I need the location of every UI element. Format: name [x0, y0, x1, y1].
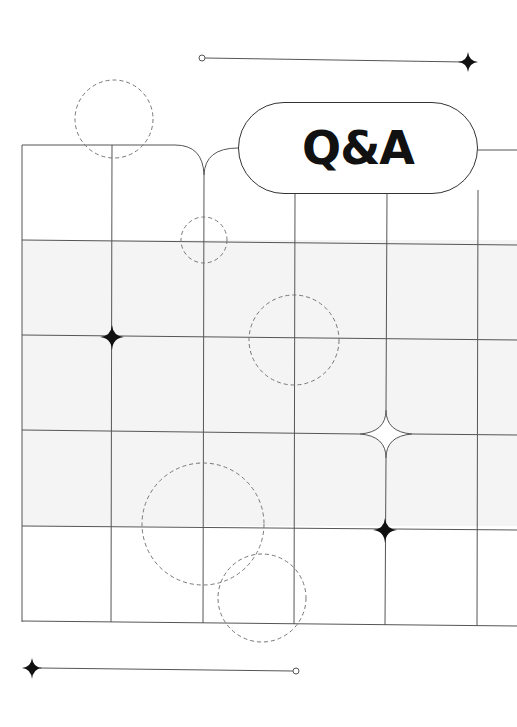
qa-graphic: Q&A — [0, 0, 517, 727]
open-circle-icon — [199, 55, 205, 61]
star-icon — [458, 52, 478, 72]
shaded-band — [22, 240, 517, 526]
page-title: Q&A — [302, 121, 414, 175]
open-circle-icon — [293, 668, 299, 674]
star-icon — [22, 658, 42, 679]
bottom-connector — [22, 658, 299, 679]
top-connector — [199, 52, 478, 72]
title-pill: Q&A — [238, 102, 478, 194]
